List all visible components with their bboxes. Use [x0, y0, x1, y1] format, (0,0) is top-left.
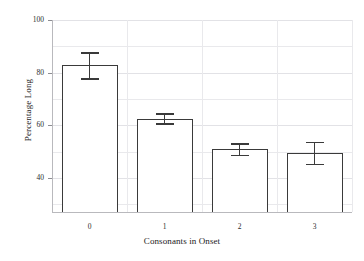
- gridline-vertical: [352, 20, 353, 212]
- gridline-vertical: [127, 20, 128, 212]
- x-tick-label: 2: [220, 222, 260, 231]
- y-tick-mark: [48, 178, 52, 179]
- y-axis-title: Percentage Long: [23, 30, 33, 190]
- error-bar-line: [314, 142, 315, 164]
- error-bar-cap-lower: [306, 164, 324, 165]
- y-tick-label: 100: [18, 15, 44, 24]
- error-bar-cap-upper: [231, 143, 249, 144]
- error-bar-cap-upper: [306, 142, 324, 143]
- gridline-vertical: [202, 20, 203, 212]
- error-bar-line: [89, 52, 90, 78]
- error-bar-cap-upper: [81, 52, 99, 53]
- x-tick-label: 1: [145, 222, 185, 231]
- gridline-vertical: [277, 20, 278, 212]
- error-bar-cap-lower: [81, 78, 99, 79]
- x-tick-label: 3: [295, 222, 335, 231]
- y-axis-line: [52, 20, 53, 212]
- y-tick-mark: [48, 73, 52, 74]
- bar: [137, 119, 193, 212]
- y-tick-mark: [48, 20, 52, 21]
- x-tick-label: 0: [70, 222, 110, 231]
- x-axis-line: [52, 212, 352, 213]
- error-bar-cap-lower: [156, 123, 174, 124]
- bar: [212, 149, 268, 212]
- error-bar-cap-lower: [231, 155, 249, 156]
- error-bar-cap-upper: [156, 113, 174, 114]
- x-axis-title: Consonants in Onset: [0, 236, 364, 246]
- bar-chart-figure: 100806040 0123 Consonants in Onset Perce…: [0, 0, 364, 261]
- error-bar-line: [164, 113, 165, 123]
- y-tick-mark: [48, 125, 52, 126]
- error-bar-line: [239, 143, 240, 155]
- bar: [62, 65, 118, 212]
